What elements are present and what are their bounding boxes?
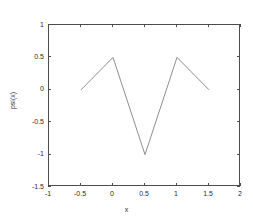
y-tick-mark	[48, 121, 51, 122]
y-tick-label: 1	[0, 21, 48, 28]
x-tick-label: -1	[33, 190, 63, 197]
y-tick-label: 0.5	[0, 53, 48, 60]
x-axis-label: x	[0, 206, 253, 213]
y-tick-mark	[237, 56, 240, 57]
x-tick-label: 1.5	[193, 190, 223, 197]
x-tick-mark	[144, 24, 145, 27]
x-tick-mark	[208, 24, 209, 27]
x-tick-label: 0	[97, 190, 127, 197]
y-tick-mark	[48, 89, 51, 90]
x-tick-mark	[112, 183, 113, 186]
y-tick-mark	[237, 121, 240, 122]
y-tick-mark	[237, 154, 240, 155]
x-tick-mark	[80, 24, 81, 27]
figure-canvas: 10.50-0.5-1-1.5 -1-0.500.511.52 psi(x) x	[0, 0, 253, 224]
y-tick-label: -1	[0, 150, 48, 157]
x-tick-label: 2	[225, 190, 253, 197]
y-tick-label: -1.5	[0, 183, 48, 190]
plot-area	[48, 24, 240, 186]
data-line-svg	[49, 25, 241, 187]
x-tick-mark	[48, 24, 49, 27]
x-tick-mark	[176, 183, 177, 186]
y-tick-mark	[48, 186, 51, 187]
x-tick-mark	[208, 183, 209, 186]
x-tick-label: 0.5	[129, 190, 159, 197]
x-tick-mark	[80, 183, 81, 186]
y-tick-mark	[237, 89, 240, 90]
y-axis-label: psi(x)	[9, 77, 16, 125]
x-tick-mark	[48, 183, 49, 186]
y-tick-mark	[237, 186, 240, 187]
x-tick-mark	[240, 183, 241, 186]
x-tick-mark	[176, 24, 177, 27]
x-tick-mark	[240, 24, 241, 27]
x-tick-label: -0.5	[65, 190, 95, 197]
y-tick-mark	[48, 56, 51, 57]
data-series-psi	[81, 57, 209, 154]
y-tick-label: 0	[0, 85, 48, 92]
y-tick-label: -0.5	[0, 118, 48, 125]
y-tick-mark	[48, 154, 51, 155]
x-tick-mark	[144, 183, 145, 186]
x-tick-mark	[112, 24, 113, 27]
x-tick-label: 1	[161, 190, 191, 197]
